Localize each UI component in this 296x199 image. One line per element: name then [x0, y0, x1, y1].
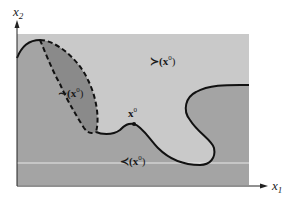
- indifferent-region-label: ∼(x0): [58, 86, 84, 100]
- indifference-diagram: x2 x1 ≻(x0) ∼(x0) ≺(x0) x0: [0, 0, 296, 199]
- x-axis-arrow-icon: [260, 184, 268, 189]
- preferred-region-label: ≻(x0): [150, 54, 176, 68]
- point-x0: [132, 122, 136, 126]
- y-axis-arrow-icon: [15, 20, 20, 28]
- x-axis-label: x1: [271, 178, 282, 195]
- worse-region-label: ≺(x0): [120, 154, 146, 168]
- y-axis-label: x2: [12, 4, 24, 21]
